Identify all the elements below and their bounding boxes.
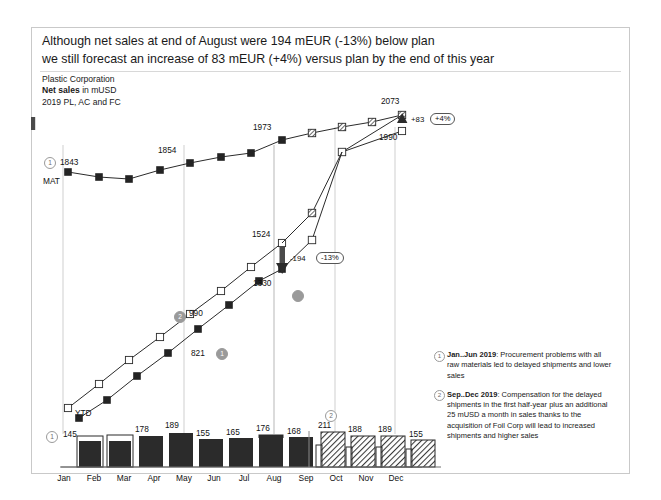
ytd-series-label: YTD (75, 409, 92, 417)
label-ytd-aug-pl: 1524 (252, 230, 270, 238)
label-delta-dec-abs: +83 (411, 116, 424, 124)
bar-label-jan: 145 (63, 430, 77, 438)
x-tick-apr: Apr (139, 474, 169, 482)
x-tick-feb: Feb (79, 474, 109, 482)
label-mat-aug: 1973 (253, 123, 271, 131)
badge-delta-dec-pct: +4% (430, 113, 455, 125)
x-tick-jun: Jun (199, 474, 229, 482)
footnote-2-marker: 2 (434, 390, 445, 401)
footnotes-panel: 1 Jan..Jun 2019: Procurement problems wi… (434, 350, 612, 450)
x-tick-oct: Oct (321, 474, 351, 482)
label-mat-dec-pl: 1990 (379, 133, 397, 141)
label-mat-may: 1854 (158, 146, 176, 154)
footnote-2-period: Sep..Dec 2019 (447, 390, 497, 399)
bar-label-oct: 188 (348, 425, 362, 433)
label-ytd-jun-pl: 990 (189, 309, 203, 317)
footnote-marker-1-bars[interactable]: 1 (46, 431, 58, 443)
x-tick-dec: Dec (381, 474, 411, 482)
bar-label-jun: 165 (226, 428, 240, 436)
x-tick-jan: Jan (49, 474, 79, 482)
footnote-1: 1 Jan..Jun 2019: Procurement problems wi… (434, 350, 612, 381)
bar-label-nov: 189 (378, 425, 392, 433)
bar-label-jul: 176 (256, 424, 270, 432)
bar-label-apr: 189 (165, 421, 179, 429)
label-delta-aug-abs: -194 (290, 255, 306, 263)
footnote-1-marker: 1 (434, 351, 445, 362)
x-tick-may: May (169, 474, 199, 482)
x-tick-jul: Jul (229, 474, 259, 482)
badge-delta-aug-pct: -13% (316, 252, 344, 264)
variance-bar-december (31, 113, 407, 130)
monthly-bars (77, 432, 435, 467)
footnote-marker-2-ytd[interactable]: 2 (174, 311, 186, 323)
label-ytd-aug-ac: 1330 (253, 279, 271, 287)
ytd-plan-line (64, 239, 285, 411)
chart-page: Although net sales at end of August were… (0, 0, 661, 500)
footnote-2: 2 Sep..Dec 2019: Compensation for the de… (434, 390, 612, 441)
x-tick-mar: Mar (109, 474, 139, 482)
x-tick-sep: Sep (291, 474, 321, 482)
footnote-marker-1-ytd[interactable]: 1 (216, 348, 228, 360)
bar-label-dec: 155 (409, 430, 423, 438)
bar-label-mar: 178 (135, 425, 149, 433)
bar-label-may: 155 (196, 429, 210, 437)
bar-label-aug: 168 (287, 427, 301, 435)
mat-series-label: MAT (43, 177, 60, 185)
ytd-actual-line (75, 265, 286, 422)
gridlines (63, 127, 395, 434)
label-mat-start: 1843 (60, 158, 78, 166)
footnote-1-period: Jan..Jun 2019 (447, 350, 496, 359)
footnote-marker-1-mat[interactable]: 1 (44, 157, 56, 169)
x-tick-aug: Aug (259, 474, 289, 482)
footnote-marker-aug-arrow[interactable] (292, 290, 304, 302)
x-tick-nov: Nov (351, 474, 381, 482)
variance-bar-august (276, 246, 289, 274)
label-ytd-jun-ac: 821 (191, 349, 205, 357)
mat-line-actual (64, 136, 286, 183)
bar-label-sep: 211 (318, 421, 331, 429)
label-mat-dec-fc: 2073 (381, 97, 399, 105)
